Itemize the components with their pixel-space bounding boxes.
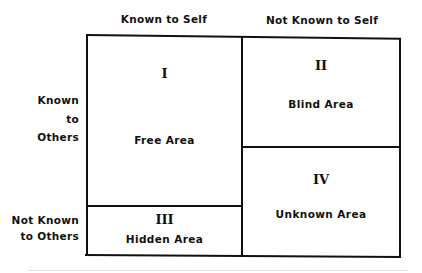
grid-left-horizontal-divider	[86, 205, 243, 207]
quadrant-iv-numeral: IV	[243, 172, 399, 187]
row-header-known-to-others-line1: Known	[37, 94, 79, 106]
quadrant-ii-blind-area-label: Blind Area	[243, 98, 399, 110]
quadrant-i-free-area-label: Free Area	[88, 134, 241, 146]
grid-bottom-border	[85, 254, 401, 258]
row-header-known-to-others-line3: Others	[37, 131, 79, 143]
quadrant-iii-numeral: III	[88, 212, 241, 227]
quadrant-iv-unknown-area-label: Unknown Area	[243, 208, 399, 220]
column-header-known-to-self: Known to Self	[86, 13, 242, 25]
quadrant-i-numeral: I	[88, 66, 241, 81]
row-header-known-to-others-line2: to	[66, 113, 79, 125]
column-header-not-known-to-self: Not Known to Self	[242, 14, 402, 26]
quadrant-ii-numeral: II	[243, 58, 399, 73]
grid-top-border	[86, 34, 401, 40]
grid-right-horizontal-divider	[242, 146, 400, 148]
scan-edge-line	[28, 270, 408, 271]
quadrant-iii-hidden-area-label: Hidden Area	[88, 233, 241, 245]
row-header-not-known-to-others-line1: Not Known	[12, 214, 79, 226]
row-header-not-known-to-others-line2: to Others	[20, 230, 79, 242]
